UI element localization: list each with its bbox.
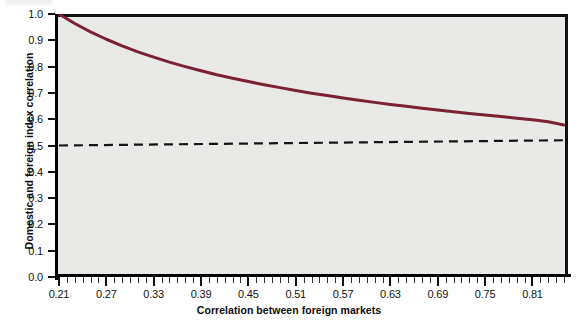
x-tick-mark-minor [477, 277, 478, 283]
x-tick-mark-minor [548, 277, 549, 283]
x-tick-mark-minor [67, 277, 68, 283]
series-line-main [59, 14, 564, 125]
y-tick-mark [48, 223, 55, 225]
x-tick-mark-minor [312, 277, 313, 283]
x-tick-mark-minor [501, 277, 502, 283]
x-tick-mark-minor [319, 277, 320, 283]
x-tick-mark-minor [122, 277, 123, 283]
x-tick-mark-minor [430, 277, 431, 283]
y-tick-mark [48, 250, 55, 252]
y-tick-mark [48, 145, 55, 147]
x-tick-label: 0.33 [132, 288, 176, 300]
x-tick-mark-minor [304, 277, 305, 283]
x-tick-mark-major [153, 277, 155, 286]
x-tick-mark-minor [461, 277, 462, 283]
x-tick-mark-major [531, 277, 533, 286]
x-tick-mark-minor [469, 277, 470, 283]
x-tick-mark-minor [225, 277, 226, 283]
x-tick-mark-minor [406, 277, 407, 283]
x-tick-mark-minor [335, 277, 336, 283]
x-tick-mark-minor [517, 277, 518, 283]
x-tick-mark-minor [288, 277, 289, 283]
x-tick-mark-minor [375, 277, 376, 283]
x-tick-mark-minor [185, 277, 186, 283]
x-tick-mark-minor [233, 277, 234, 283]
x-tick-label: 0.45 [226, 288, 270, 300]
x-tick-mark-major [58, 277, 60, 286]
x-tick-mark-minor [525, 277, 526, 283]
x-tick-mark-major [484, 277, 486, 286]
x-tick-mark-minor [146, 277, 147, 283]
y-tick-mark [48, 276, 55, 278]
x-tick-mark-minor [169, 277, 170, 283]
y-axis-title: Domestic and foreign index correlation [23, 26, 35, 276]
x-tick-mark-minor [83, 277, 84, 283]
x-tick-mark-major [105, 277, 107, 286]
x-tick-mark-major [247, 277, 249, 286]
y-tick-mark [48, 39, 55, 41]
plot-lines [55, 14, 568, 277]
x-tick-mark-minor [256, 277, 257, 283]
x-tick-mark-minor [509, 277, 510, 283]
x-tick-mark-minor [138, 277, 139, 283]
x-tick-mark-minor [422, 277, 423, 283]
reference-dashed-line [59, 140, 564, 145]
x-axis-title: Correlation between foreign markets [0, 304, 578, 316]
x-tick-mark-minor [240, 277, 241, 283]
x-tick-mark-minor [162, 277, 163, 283]
x-tick-mark-minor [446, 277, 447, 283]
x-tick-mark-minor [359, 277, 360, 283]
x-tick-mark-minor [414, 277, 415, 283]
x-tick-mark-major [295, 277, 297, 286]
y-tick-label: 1.0 [3, 8, 43, 20]
y-tick-mark [48, 66, 55, 68]
x-tick-label: 0.81 [510, 288, 554, 300]
x-tick-mark-major [389, 277, 391, 286]
x-tick-mark-minor [556, 277, 557, 283]
x-tick-mark-minor [91, 277, 92, 283]
x-tick-mark-major [200, 277, 202, 286]
scan-artifact [6, 0, 52, 7]
y-tick-mark [48, 118, 55, 120]
x-tick-mark-minor [280, 277, 281, 283]
x-tick-label: 0.75 [463, 288, 507, 300]
x-tick-label: 0.39 [179, 288, 223, 300]
y-tick-mark [48, 13, 55, 15]
x-tick-mark-minor [193, 277, 194, 283]
x-tick-mark-minor [367, 277, 368, 283]
x-tick-mark-minor [540, 277, 541, 283]
x-tick-label: 0.21 [37, 288, 81, 300]
x-tick-label: 0.27 [84, 288, 128, 300]
x-tick-mark-minor [351, 277, 352, 283]
y-tick-mark [48, 92, 55, 94]
x-tick-mark-minor [272, 277, 273, 283]
x-tick-mark-minor [130, 277, 131, 283]
x-tick-mark-minor [75, 277, 76, 283]
x-tick-mark-minor [564, 277, 565, 283]
x-tick-label: 0.63 [368, 288, 412, 300]
x-tick-mark-minor [98, 277, 99, 283]
x-tick-label: 0.57 [321, 288, 365, 300]
x-tick-mark-minor [264, 277, 265, 283]
x-tick-mark-minor [493, 277, 494, 283]
x-tick-mark-minor [209, 277, 210, 283]
x-tick-label: 0.51 [274, 288, 318, 300]
x-tick-mark-major [342, 277, 344, 286]
x-tick-mark-minor [114, 277, 115, 283]
x-tick-mark-minor [177, 277, 178, 283]
x-tick-mark-minor [398, 277, 399, 283]
x-tick-mark-minor [217, 277, 218, 283]
x-tick-mark-minor [383, 277, 384, 283]
x-tick-mark-minor [327, 277, 328, 283]
x-tick-mark-major [437, 277, 439, 286]
x-tick-mark-minor [454, 277, 455, 283]
y-tick-mark [48, 171, 55, 173]
x-tick-label: 0.69 [416, 288, 460, 300]
y-tick-mark [48, 197, 55, 199]
